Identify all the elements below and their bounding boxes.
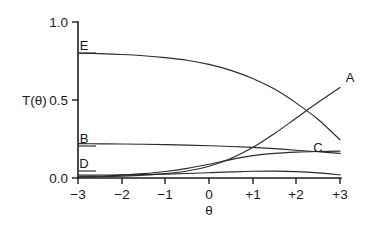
y-tick-label-0: 0.0: [49, 171, 68, 186]
y-tick-label-1: 1.0: [49, 15, 68, 30]
series-path-D: [78, 171, 340, 175]
curve-label-D: D: [79, 156, 88, 171]
x-tick-label-plus3: +3: [332, 187, 347, 202]
x-tick-label-zero: 0: [205, 187, 213, 202]
curve-label-E: E: [80, 38, 89, 53]
series-group: [78, 53, 340, 177]
x-tick-label-plus2: +2: [288, 187, 303, 202]
curve-label-B: B: [80, 131, 89, 146]
curve-label-A: A: [346, 70, 355, 85]
y-axis-title: T(θ): [22, 93, 47, 108]
x-axis-title: θ: [205, 203, 213, 218]
x-tick-label-minus3: −3: [70, 187, 85, 202]
chart-figure: 1.0 0.5 0.0 −3 −2 −1 0 +1 +2 +3 T(θ) θ A…: [0, 0, 381, 226]
x-tick-label-plus1: +1: [245, 187, 260, 202]
series-path-E: [78, 53, 340, 140]
line-chart: 1.0 0.5 0.0 −3 −2 −1 0 +1 +2 +3 T(θ) θ A…: [0, 0, 381, 226]
x-tick-label-minus2: −2: [114, 187, 129, 202]
x-tick-label-minus1: −1: [157, 187, 172, 202]
y-tick-label-0-5: 0.5: [49, 93, 68, 108]
curve-label-C: C: [313, 140, 322, 155]
